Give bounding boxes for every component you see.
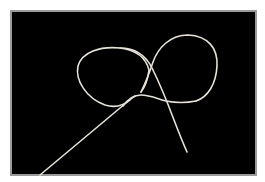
string-crossing-arc <box>123 95 196 106</box>
string-left-loop <box>78 48 149 107</box>
string-tail <box>40 96 135 175</box>
string-knot-illustration <box>0 0 265 182</box>
